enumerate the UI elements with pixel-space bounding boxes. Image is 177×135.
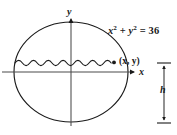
x-axis-label: x bbox=[139, 67, 144, 77]
equation-right-side-value: 36 bbox=[149, 25, 160, 36]
point-marker-xy bbox=[112, 61, 116, 65]
height-dimension-label: h bbox=[160, 85, 166, 95]
circle-water-level-figure: x2 + y2 = 36 (x, y) y x h bbox=[0, 0, 177, 135]
circle-equation-label: x2 + y2 = 36 bbox=[108, 26, 159, 37]
equation-equals-sign: = bbox=[137, 25, 149, 36]
y-axis-label: y bbox=[67, 7, 71, 17]
water-surface-wavy-line bbox=[15, 60, 111, 65]
equation-plus-operator: + bbox=[117, 25, 129, 36]
figure-canvas bbox=[0, 0, 177, 135]
point-coordinate-label: (x, y) bbox=[119, 57, 140, 67]
